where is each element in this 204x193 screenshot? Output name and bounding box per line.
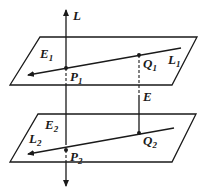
label-plane-e2: E2: [44, 117, 59, 134]
label-line-l1: L1: [167, 52, 180, 69]
diagram-canvas: L E1 L1 Q1 P1 E E2 L2 Q2 P2: [0, 0, 204, 193]
label-point-q2: Q2: [143, 133, 157, 150]
label-plane-e1: E1: [39, 46, 53, 63]
label-point-p1: P1: [70, 69, 82, 86]
point-p2: [64, 148, 68, 152]
point-p1: [64, 66, 68, 70]
point-q2: [137, 131, 141, 135]
label-point-p2: P2: [70, 149, 83, 166]
label-point-q1: Q1: [143, 56, 157, 73]
label-line-l: L: [72, 8, 81, 23]
label-segment-e: E: [142, 89, 152, 104]
label-line-l2: L2: [28, 131, 42, 148]
point-q1: [137, 53, 141, 57]
